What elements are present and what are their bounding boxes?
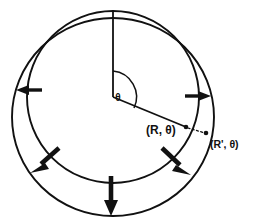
displacement-arrow-right <box>185 91 211 101</box>
geometry-diagram: θ (R, θ) (R', θ) <box>0 0 261 224</box>
outer-point-marker <box>204 131 209 136</box>
figure-container: θ (R, θ) (R', θ) <box>0 0 261 224</box>
displacement-arrow-lower-right <box>162 148 191 175</box>
inner-point-marker <box>184 125 189 130</box>
outer-point-label: (R', θ) <box>210 138 239 150</box>
angle-label: θ <box>115 92 120 103</box>
displacement-arrow-left <box>16 85 42 95</box>
inner-point-label: (R, θ) <box>146 123 176 137</box>
